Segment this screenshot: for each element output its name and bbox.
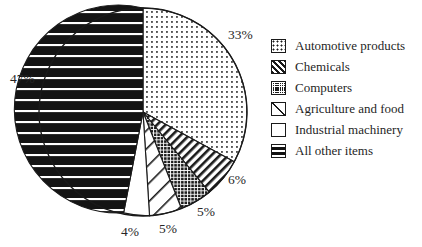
legend-swatch-dots-icon (271, 39, 286, 53)
legend-swatch-solid-white-icon (271, 123, 286, 137)
pie-label-agriculture-and-food: 5% (159, 221, 177, 237)
pie-label-all-other-items: 47% (10, 71, 35, 87)
pie-chart-figure: 33% 6% 5% 5% 4% 47% Automotive products … (0, 0, 422, 247)
legend-item-chemicals: Chemicals (271, 56, 419, 77)
pie-label-industrial-machinery: 4% (121, 224, 139, 240)
legend-item-all-other-items: All other items (271, 140, 419, 161)
chart-legend: Automotive products Chemicals Computers … (271, 35, 419, 161)
legend-label-computers: Computers (295, 81, 352, 95)
legend-label-industrial-machinery: Industrial machinery (295, 123, 403, 137)
pie-slice-all-other-items (14, 5, 143, 213)
pie-label-chemicals: 6% (228, 172, 246, 188)
legend-label-all-other-items: All other items (295, 144, 373, 158)
pie-label-computers: 5% (197, 204, 215, 220)
legend-swatch-dense-grid-icon (271, 81, 286, 95)
legend-item-computers: Computers (271, 77, 419, 98)
legend-swatch-horizontal-lines-icon (271, 144, 286, 158)
legend-swatch-single-diagonal-icon (271, 102, 286, 116)
pie-label-automotive-products: 33% (228, 27, 253, 43)
legend-item-industrial-machinery: Industrial machinery (271, 119, 419, 140)
legend-item-automotive-products: Automotive products (271, 35, 419, 56)
legend-label-chemicals: Chemicals (295, 60, 350, 74)
legend-label-agriculture-and-food: Agriculture and food (295, 102, 404, 116)
legend-swatch-diagonal-hatch-icon (271, 60, 286, 74)
legend-label-automotive-products: Automotive products (295, 39, 405, 53)
legend-item-agriculture-and-food: Agriculture and food (271, 98, 419, 119)
pie-slices (14, 5, 247, 216)
